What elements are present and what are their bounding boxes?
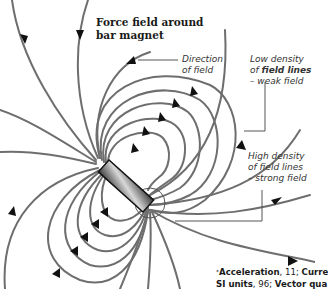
figure-title: Force field around bar magnet [96,16,216,42]
high-density-line-2: of field lines [248,162,307,173]
ref-acceleration: Acceleration [219,267,280,277]
high-density-line-1: High density [248,151,307,162]
low-density-line-2: of field lines [250,65,311,76]
field-lines-term: field lines [262,65,312,75]
direction-label-line-1: Direction [182,54,223,65]
high-density-label: High density of field lines – strong fie… [248,151,307,184]
low-density-line-3: – weak field [250,76,311,87]
low-density-prefix: of [250,65,262,75]
low-density-line-1: Low density [250,54,311,65]
direction-of-field-label: Direction of field [182,54,223,76]
cross-reference-footer: *Acceleration, 11; Curre SI units, 96; V… [216,266,328,289]
title-line-2: bar magnet [96,29,216,42]
ref-current: Curre [302,267,328,277]
ref-page-96: , 96; [253,279,275,289]
low-density-label: Low density of field lines – weak field [250,54,311,87]
ref-si-units: SI units [216,279,253,289]
ref-page-11: , 11; [280,267,302,277]
ref-vector-quantity: Vector qua [275,279,327,289]
title-line-1: Force field around [96,16,216,29]
footer-line-2: SI units, 96; Vector qua [216,278,328,289]
footer-line-1: *Acceleration, 11; Curre [216,266,328,278]
direction-label-line-2: of field [182,65,223,76]
bar-magnet-icon [98,160,153,212]
high-density-line-3: – strong field [248,173,307,184]
